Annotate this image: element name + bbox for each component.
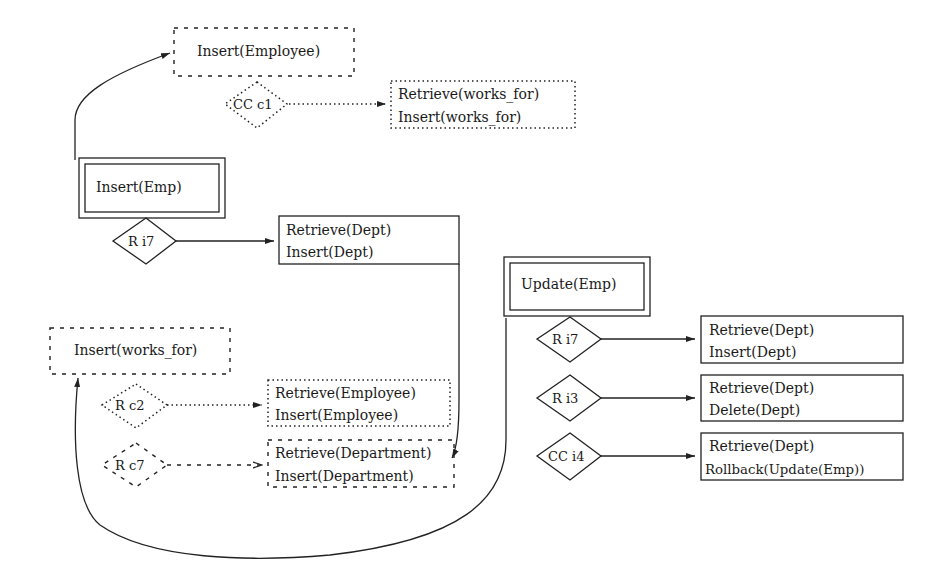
- update-emp-r-i3-action-2: Delete(Dept): [709, 402, 800, 418]
- update-emp-r-i7-label: R i7: [552, 332, 578, 347]
- update-emp-cc-i4-action-2: Rollback(Update(Emp)): [705, 462, 864, 477]
- insert-employee-node[interactable]: Insert(Employee): [174, 28, 354, 76]
- insert-emp-label: Insert(Emp): [96, 179, 182, 195]
- insert-emp-r-i7-action-1: Retrieve(Dept): [286, 222, 391, 238]
- insert-employee-label: Insert(Employee): [197, 43, 320, 59]
- update-emp-cc-i4-label: CC i4: [548, 449, 584, 464]
- cc-c1-action-2: Insert(works_for): [398, 109, 521, 126]
- cc-c1-action-box[interactable]: Retrieve(works_for) Insert(works_for): [391, 81, 575, 128]
- r-c2-action-box[interactable]: Retrieve(Employee) Insert(Employee): [268, 380, 450, 426]
- insert-emp-r-i7-label: R i7: [128, 234, 154, 249]
- update-emp-cc-i4-action-1: Retrieve(Dept): [709, 438, 814, 454]
- update-emp-r-i7-action-2: Insert(Dept): [709, 344, 796, 360]
- edge-insert-emp-to-insert-employee: [75, 53, 170, 160]
- cc-c1-action-1: Retrieve(works_for): [398, 86, 539, 103]
- r-c7-label: R c7: [115, 458, 144, 473]
- update-emp-cc-i4-action-box[interactable]: Retrieve(Dept) Rollback(Update(Emp)): [701, 433, 903, 480]
- r-c7-action-box[interactable]: Retrieve(Department) Insert(Department): [268, 440, 454, 487]
- update-emp-cc-i4-condition[interactable]: CC i4: [537, 433, 601, 480]
- insert-emp-r-i7-action-box[interactable]: Retrieve(Dept) Insert(Dept): [279, 216, 459, 264]
- rule-graph-diagram: Insert(Employee) CC c1 Retrieve(works_fo…: [0, 0, 950, 582]
- r-c2-condition[interactable]: R c2: [102, 384, 167, 428]
- update-emp-r-i3-label: R i3: [552, 391, 578, 406]
- insert-works-for-node[interactable]: Insert(works_for): [50, 328, 230, 374]
- cc-c1-label: CC c1: [233, 97, 273, 112]
- cc-c1-condition[interactable]: CC c1: [225, 82, 287, 128]
- r-c2-action-2: Insert(Employee): [275, 407, 398, 423]
- insert-works-for-label: Insert(works_for): [74, 342, 197, 359]
- r-c7-action-2: Insert(Department): [275, 468, 414, 484]
- update-emp-r-i7-action-box[interactable]: Retrieve(Dept) Insert(Dept): [701, 316, 903, 363]
- update-emp-label: Update(Emp): [521, 276, 616, 292]
- edge-insert-dept-to-department: [452, 264, 459, 458]
- insert-emp-node[interactable]: Insert(Emp): [79, 158, 225, 218]
- update-emp-r-i3-action-1: Retrieve(Dept): [709, 380, 814, 396]
- r-c2-label: R c2: [115, 398, 144, 413]
- update-emp-r-i7-condition[interactable]: R i7: [537, 317, 601, 362]
- insert-emp-r-i7-action-2: Insert(Dept): [286, 244, 373, 260]
- insert-emp-r-i7-condition[interactable]: R i7: [113, 218, 176, 264]
- update-emp-r-i3-condition[interactable]: R i3: [537, 375, 601, 421]
- update-emp-r-i7-action-1: Retrieve(Dept): [709, 322, 814, 338]
- r-c7-condition[interactable]: R c7: [102, 443, 167, 487]
- r-c7-action-1: Retrieve(Department): [275, 445, 431, 461]
- r-c2-action-1: Retrieve(Employee): [275, 385, 416, 401]
- update-emp-node[interactable]: Update(Emp): [504, 257, 650, 316]
- update-emp-r-i3-action-box[interactable]: Retrieve(Dept) Delete(Dept): [701, 375, 903, 421]
